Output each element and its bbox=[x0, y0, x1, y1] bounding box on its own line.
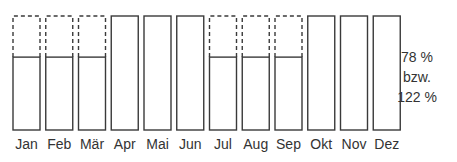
bar-Jul: Jul bbox=[210, 16, 237, 152]
annotation-122: 122 % bbox=[392, 87, 442, 107]
x-tick-label: Dez bbox=[374, 136, 399, 152]
x-tick-label: Nov bbox=[342, 136, 367, 152]
bar-Feb: Feb bbox=[46, 16, 73, 152]
bar-Aug: Aug bbox=[242, 16, 269, 152]
bar-dashed-outline bbox=[13, 16, 40, 57]
x-tick-label: Jul bbox=[214, 136, 232, 152]
x-tick-label: Okt bbox=[310, 136, 332, 152]
bar-Apr: Apr bbox=[111, 16, 138, 152]
x-tick-label: Sep bbox=[276, 136, 301, 152]
bar-dashed-outline bbox=[275, 16, 302, 57]
bar-Sep: Sep bbox=[275, 16, 302, 152]
x-tick-label: Jan bbox=[15, 136, 38, 152]
bar-Okt: Okt bbox=[308, 16, 335, 152]
x-tick-label: Aug bbox=[243, 136, 268, 152]
bar-Nov: Nov bbox=[341, 16, 368, 152]
bar-solid bbox=[144, 16, 171, 130]
x-tick-label: Mai bbox=[146, 136, 169, 152]
annotation-78: 78 % bbox=[392, 47, 442, 67]
bar-solid bbox=[275, 57, 302, 130]
bar-solid bbox=[210, 57, 237, 130]
bar-dashed-outline bbox=[79, 16, 106, 57]
bar-Jan: Jan bbox=[13, 16, 40, 152]
bar-solid bbox=[341, 16, 368, 130]
bar-Jun: Jun bbox=[177, 16, 204, 152]
x-tick-label: Jun bbox=[179, 136, 202, 152]
bar-Mai: Mai bbox=[144, 16, 171, 152]
bar-chart: JanFebMärAprMaiJunJulAugSepOktNovDez bbox=[0, 0, 457, 162]
bar-solid bbox=[242, 57, 269, 130]
bar-Mär: Mär bbox=[79, 16, 106, 152]
x-tick-label: Mär bbox=[80, 136, 104, 152]
bar-dashed-outline bbox=[46, 16, 73, 57]
annotation-bzw: bzw. bbox=[392, 67, 442, 87]
bar-solid bbox=[13, 57, 40, 130]
x-tick-label: Apr bbox=[114, 136, 136, 152]
bar-solid bbox=[111, 16, 138, 130]
bar-dashed-outline bbox=[242, 16, 269, 57]
x-tick-label: Feb bbox=[47, 136, 71, 152]
bar-solid bbox=[177, 16, 204, 130]
bar-solid bbox=[79, 57, 106, 130]
bar-solid bbox=[46, 57, 73, 130]
bar-dashed-outline bbox=[210, 16, 237, 57]
bar-solid bbox=[308, 16, 335, 130]
